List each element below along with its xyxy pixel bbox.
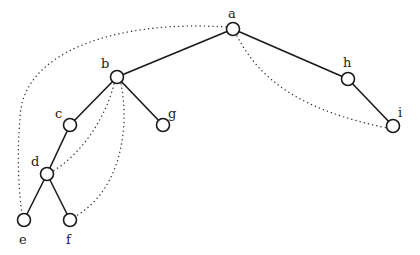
edge-a-h bbox=[233, 29, 348, 79]
thread-b-f bbox=[76, 84, 124, 216]
edge-d-f bbox=[47, 174, 70, 220]
edge-h-i bbox=[348, 79, 393, 126]
tree-nodes bbox=[18, 23, 400, 227]
node-d bbox=[41, 168, 54, 181]
thread-a-e bbox=[18, 26, 226, 214]
node-i bbox=[387, 120, 400, 133]
node-label-d: d bbox=[31, 154, 39, 169]
node-label-b: b bbox=[101, 56, 109, 71]
node-label-a: a bbox=[228, 6, 236, 21]
node-label-c: c bbox=[55, 106, 62, 121]
edge-d-e bbox=[24, 174, 47, 220]
node-label-i: i bbox=[398, 105, 402, 120]
edge-b-c bbox=[70, 77, 117, 125]
edge-c-d bbox=[47, 125, 70, 174]
node-h bbox=[342, 73, 355, 86]
tree-edges bbox=[24, 29, 393, 220]
thread-a-i bbox=[237, 36, 387, 128]
node-label-g: g bbox=[168, 106, 176, 121]
node-label-e: e bbox=[19, 232, 27, 247]
tree-diagram: abhicgdef bbox=[0, 0, 420, 255]
thread-b-d bbox=[53, 84, 114, 171]
node-e bbox=[18, 214, 31, 227]
node-c bbox=[64, 119, 77, 132]
edge-a-b bbox=[117, 29, 233, 77]
node-b bbox=[111, 71, 124, 84]
node-a bbox=[227, 23, 240, 36]
node-f bbox=[64, 214, 77, 227]
node-label-h: h bbox=[343, 55, 352, 70]
node-label-f: f bbox=[66, 232, 72, 247]
